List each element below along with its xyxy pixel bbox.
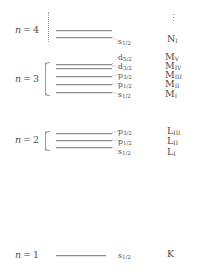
xray-label-N1: NI [167,34,178,44]
xray-label-L1: LI [167,147,176,157]
energy-level-line [56,84,112,85]
xray-label-K: K [167,249,174,259]
energy-level-line [56,255,106,256]
energy-level-line [56,92,112,93]
vertical-ellipsis-icon: ⋮ [169,14,178,23]
continuation-dotted-line [48,12,49,42]
energy-level-line [56,37,112,38]
xray-label-L2: LII [167,136,178,146]
shell-label-n2: n = 2 [15,134,39,145]
orbital-label-n2-p32: p3/2 [118,128,132,137]
energy-level-line [56,147,112,148]
brace-n2 [45,131,51,151]
brace-n3 [45,62,51,96]
energy-level-line [56,64,112,65]
shell-label-n3: n = 3 [15,73,39,84]
energy-level-line [56,76,112,77]
orbital-label-n2-s12: s1/2 [118,148,131,157]
shell-label-n4: n = 4 [15,24,39,35]
orbital-label-n3-s12: s1/2 [118,91,131,100]
energy-level-line [56,140,112,141]
energy-level-line [56,30,112,31]
xray-label-M1: MI [165,89,177,99]
energy-level-diagram: n = 4 s1/2 NI ⋮ n = 3 d5/2 d3/2 p3/2 p1/… [0,0,200,273]
orbital-label-n3-p12: p1/2 [118,81,132,90]
orbital-label-n2-p12: p1/2 [118,138,132,147]
orbital-label-n1-s12: s1/2 [118,252,131,261]
energy-level-line [56,133,112,134]
orbital-label-n4-s12: s1/2 [118,38,131,47]
energy-level-line [56,68,112,69]
shell-label-n1: n = 1 [15,249,39,260]
